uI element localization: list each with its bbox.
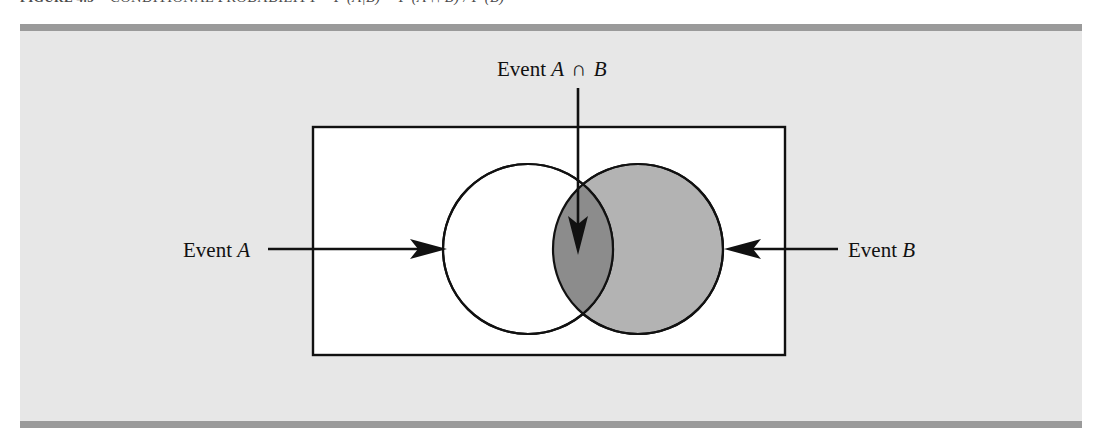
figure-container: FIGURE 4.5CONDITIONAL PROBABILITYP (A|B)… bbox=[0, 0, 1101, 443]
label-intersection-set-b: B bbox=[594, 57, 607, 81]
label-event-a: Event A bbox=[183, 238, 250, 263]
label-event-a-prefix: Event bbox=[183, 238, 232, 262]
label-event-b: Event B bbox=[848, 238, 915, 263]
label-event-b-prefix: Event bbox=[848, 238, 897, 262]
label-event-a-intersect-b: Event A ∩ B bbox=[497, 57, 607, 82]
label-event-b-set: B bbox=[902, 238, 915, 262]
intersection-operator-icon: ∩ bbox=[569, 57, 588, 81]
label-event-a-set: A bbox=[237, 238, 250, 262]
label-intersection-set-a: A bbox=[551, 57, 564, 81]
label-intersection-prefix: Event bbox=[497, 57, 546, 81]
